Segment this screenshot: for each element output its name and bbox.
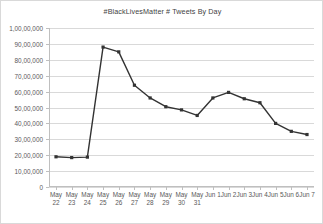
x-axis-tick-label-line: May (97, 191, 109, 199)
y-axis-tick-label: 10,00,000 (0, 168, 43, 175)
x-axis-tick-label-line: 31 (191, 199, 203, 207)
x-axis-tick-label-line: 30 (175, 199, 187, 207)
x-axis-tick-label: Jun 3 (236, 191, 252, 199)
x-axis-tick (213, 187, 214, 190)
x-axis-tick-label-line: 23 (66, 199, 78, 207)
data-point (227, 91, 230, 94)
data-point (70, 156, 73, 159)
x-axis-tick-label: May22 (50, 191, 62, 206)
x-axis-tick-label-line: Jun 6 (283, 191, 299, 199)
tweets-line-series (49, 28, 314, 187)
x-axis-tick (119, 187, 120, 190)
y-axis-tick-label: 80,00,000 (0, 56, 43, 63)
series-polyline (56, 47, 307, 158)
x-axis-tick-label: May27 (128, 191, 140, 206)
x-axis-tick-label-line: May (66, 191, 78, 199)
data-point (243, 97, 246, 100)
y-axis-tick-label: 0 (0, 184, 43, 191)
x-axis-tick-label-line: May (175, 191, 187, 199)
x-axis-tick-label: Jun 7 (299, 191, 315, 199)
data-point (196, 114, 199, 117)
y-axis-tick-label: 90,00,000 (0, 40, 43, 47)
x-axis-tick-label-line: 25 (97, 199, 109, 207)
x-axis-tick-label-line: 28 (144, 199, 156, 207)
x-axis-tick-label-line: May (191, 191, 203, 199)
x-axis-tick-label-line: Jun 2 (221, 191, 237, 199)
data-point (117, 50, 120, 53)
x-axis-tick (244, 187, 245, 190)
x-axis-tick (182, 187, 183, 190)
x-axis-tick (134, 187, 135, 190)
x-axis-tick-label-line: Jun 1 (205, 191, 221, 199)
y-axis-tick-label: 50,00,000 (0, 104, 43, 111)
chart-title: #BlackLivesMatter # Tweets By Day (1, 7, 323, 16)
plot-area (49, 28, 314, 187)
data-point (290, 130, 293, 133)
chart-container: #BlackLivesMatter # Tweets By Day 010,00… (0, 0, 323, 224)
data-point (258, 101, 261, 104)
y-axis-tick-label: 30,00,000 (0, 136, 43, 143)
x-axis-tick-label: Jun 2 (221, 191, 237, 199)
y-axis-tick-label: 60,00,000 (0, 88, 43, 95)
x-axis-tick-label-line: Jun 7 (299, 191, 315, 199)
y-axis-tick-label: 20,00,000 (0, 152, 43, 159)
x-axis-tick (197, 187, 198, 190)
data-point (86, 156, 89, 159)
x-axis-tick-label-line: Jun 3 (236, 191, 252, 199)
x-axis-tick-label-line: May (128, 191, 140, 199)
x-axis-tick-label-line: 22 (50, 199, 62, 207)
x-axis-tick-label-line: May (81, 191, 93, 199)
x-axis-tick-label: May30 (175, 191, 187, 206)
data-point (211, 96, 214, 99)
x-axis-tick-label: May28 (144, 191, 156, 206)
x-axis-tick-label: May26 (113, 191, 125, 206)
x-axis-tick (103, 187, 104, 190)
x-axis-tick-label-line: Jun 5 (268, 191, 284, 199)
data-point (149, 96, 152, 99)
x-axis-tick-label: Jun 1 (205, 191, 221, 199)
series-markers (54, 45, 308, 159)
data-point (305, 133, 308, 136)
data-point (164, 105, 167, 108)
x-axis-tick-label-line: May (50, 191, 62, 199)
x-axis-tick-label: Jun 5 (268, 191, 284, 199)
x-axis-tick-label: Jun 4 (252, 191, 268, 199)
x-axis-tick (87, 187, 88, 190)
data-point (180, 108, 183, 111)
x-axis-tick (229, 187, 230, 190)
x-axis-tick-label: May31 (191, 191, 203, 206)
x-axis-tick-label-line: May (160, 191, 172, 199)
x-axis-tick-label-line: May (113, 191, 125, 199)
data-point (54, 155, 57, 158)
data-point (133, 84, 136, 87)
x-axis-tick (260, 187, 261, 190)
x-axis-tick (72, 187, 73, 190)
x-axis-tick (166, 187, 167, 190)
x-axis-tick-label-line: Jun 4 (252, 191, 268, 199)
x-axis-tick-label: May25 (97, 191, 109, 206)
x-axis-tick (291, 187, 292, 190)
x-axis-tick (150, 187, 151, 190)
x-axis-tick-label-line: 27 (128, 199, 140, 207)
x-axis-tick-label-line: 26 (113, 199, 125, 207)
x-axis-tick-label-line: May (144, 191, 156, 199)
x-axis-tick (56, 187, 57, 190)
y-axis-tick-label: 70,00,000 (0, 72, 43, 79)
x-axis-tick-label: May23 (66, 191, 78, 206)
x-axis-tick-label-line: 29 (160, 199, 172, 207)
y-axis-tick-label: 1,00,00,000 (0, 25, 43, 32)
x-axis-tick-label: Jun 6 (283, 191, 299, 199)
x-axis-tick (276, 187, 277, 190)
data-point (101, 45, 104, 48)
x-axis-tick-label-line: 24 (81, 199, 93, 207)
x-axis-tick-label: May24 (81, 191, 93, 206)
x-axis-tick (307, 187, 308, 190)
y-axis-tick (46, 187, 49, 188)
y-axis-tick-label: 40,00,000 (0, 120, 43, 127)
x-axis-tick-label: May29 (160, 191, 172, 206)
data-point (274, 122, 277, 125)
